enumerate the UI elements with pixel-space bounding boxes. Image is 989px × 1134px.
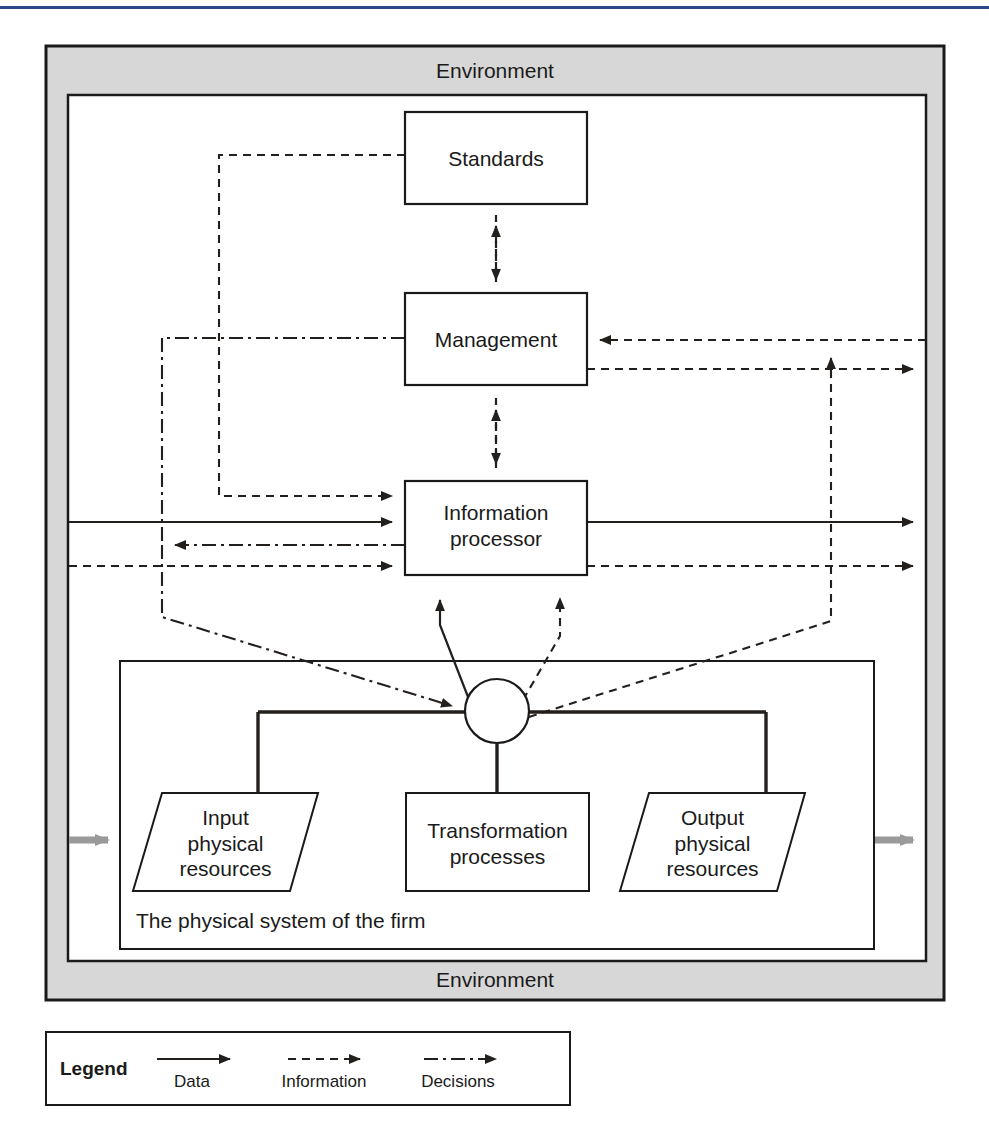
box-information-processor[interactable] [405,481,587,575]
box-standards[interactable] [405,112,587,204]
box-management[interactable] [405,293,587,385]
diagram-page: Environment Environment Standards Manage… [0,0,989,1134]
systems-diagram [0,0,989,1134]
box-output-physical-resources[interactable] [620,793,805,891]
box-input-physical-resources[interactable] [133,793,318,891]
system-junction-node [465,679,529,743]
box-transformation-processes[interactable] [406,793,589,891]
legend-frame [46,1032,570,1105]
